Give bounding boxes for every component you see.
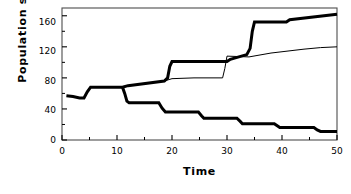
series-lower-thick-line — [123, 87, 338, 131]
chart-figure: Population size 160 120 80 40 0 0 10 20 … — [0, 0, 351, 194]
plot-frame — [62, 8, 337, 140]
series-upper-thick-line — [66, 14, 337, 98]
data-series-group — [66, 14, 337, 131]
plot-frame-box — [62, 8, 337, 140]
plot-area — [0, 0, 351, 194]
